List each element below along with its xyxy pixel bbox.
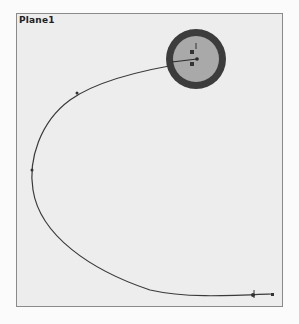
origin-disk[interactable] [166, 29, 226, 89]
spline-endpoint[interactable] [271, 293, 274, 296]
spline-point[interactable] [76, 92, 79, 95]
constraint-icon [190, 62, 194, 66]
sketch-canvas[interactable] [0, 0, 299, 324]
constraint-icon [190, 50, 194, 54]
spline-point[interactable] [31, 169, 34, 172]
sketch-spline[interactable] [32, 62, 272, 296]
